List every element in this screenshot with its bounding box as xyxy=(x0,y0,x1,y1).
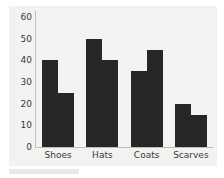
x-tick-label: Scarves xyxy=(173,150,208,161)
bar-chart-figure: 60 50 40 30 20 10 0 Shoes Hats Coats Sca… xyxy=(0,0,224,178)
bar[interactable] xyxy=(147,50,163,148)
y-tick-label: 50 xyxy=(21,34,32,43)
bar-group xyxy=(86,17,118,147)
x-tick-label: Hats xyxy=(92,150,113,161)
caption-strip xyxy=(9,169,79,174)
x-tick-label: Shoes xyxy=(45,150,72,161)
bar-group xyxy=(42,17,74,147)
bar-group xyxy=(131,17,163,147)
bar[interactable] xyxy=(191,115,207,148)
bar[interactable] xyxy=(102,60,118,147)
plot-panel: 60 50 40 30 20 10 0 Shoes Hats Coats Sca… xyxy=(9,6,217,166)
bar-group xyxy=(175,17,207,147)
bar[interactable] xyxy=(42,60,58,147)
y-tick-label: 20 xyxy=(21,99,32,108)
bar[interactable] xyxy=(131,71,147,147)
y-tick-label: 10 xyxy=(21,121,32,130)
y-tick-label: 40 xyxy=(21,56,32,65)
x-axis: Shoes Hats Coats Scarves xyxy=(36,150,213,164)
y-tick-label: 0 xyxy=(26,143,32,152)
bar[interactable] xyxy=(175,104,191,147)
plot-area xyxy=(36,17,213,147)
bar[interactable] xyxy=(58,93,74,147)
y-tick-label: 60 xyxy=(21,13,32,22)
x-axis-line xyxy=(35,147,213,148)
x-tick-label: Coats xyxy=(134,150,160,161)
y-tick-label: 30 xyxy=(21,78,32,87)
bar[interactable] xyxy=(86,39,102,147)
y-axis: 60 50 40 30 20 10 0 xyxy=(9,6,35,166)
